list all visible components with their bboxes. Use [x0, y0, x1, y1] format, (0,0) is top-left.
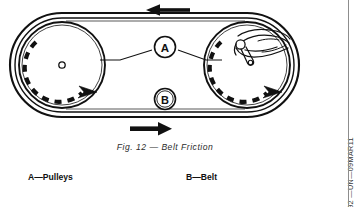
legend-item-belt: B—Belt — [186, 172, 217, 182]
hand-fingertip-detail — [248, 60, 252, 64]
leader-line-to-left-pulley — [100, 50, 152, 60]
right-pulley-rim — [204, 22, 290, 108]
left-pulley — [19, 22, 105, 108]
right-pulley — [204, 22, 290, 108]
figure-caption: Fig. 12 — Belt Friction — [0, 142, 330, 152]
belt-direction-right — [130, 122, 172, 135]
callout-a-label: A — [161, 42, 169, 54]
callout-a[interactable]: A — [155, 37, 176, 58]
page-edge-rule — [348, 0, 349, 207]
legend-item-pulleys: A—Pulleys — [28, 172, 73, 182]
hand-thumb-knuckle — [236, 40, 245, 49]
callout-b-label: B — [161, 94, 169, 106]
top-arrow-head — [146, 4, 160, 16]
callout-b[interactable]: B — [155, 89, 176, 110]
belt-direction-left — [146, 4, 190, 16]
left-pulley-hub — [59, 62, 65, 68]
bottom-arrow-shaft — [130, 126, 158, 131]
figure-page: A B Fig. 12 — Belt Friction A—Pulleys B—… — [0, 0, 358, 207]
top-arrow-shaft — [160, 8, 190, 12]
bottom-arrow-head — [158, 122, 172, 135]
